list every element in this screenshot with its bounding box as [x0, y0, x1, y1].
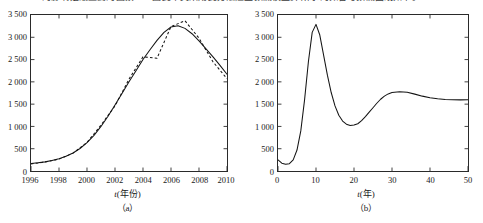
y-tick-label: 500	[261, 145, 274, 154]
x-tick-label: 1996	[22, 176, 39, 185]
x-tick-label: 40	[426, 176, 435, 185]
series-fitted-solid-a	[31, 26, 227, 164]
y-tick-label: 1 000	[8, 123, 27, 132]
y-tick-label: 3 500	[8, 10, 27, 19]
axis-ticks-b	[278, 15, 468, 171]
x-tick-label: 2008	[191, 176, 208, 185]
series-model-solid-b	[278, 24, 468, 164]
x-tick-label: 0	[275, 176, 279, 185]
y-tick-label: 1 500	[255, 100, 274, 109]
x-axis-title-b: t(年)	[241, 189, 483, 199]
y-tick-label: 3 000	[8, 32, 27, 41]
y-tick-label: 0	[270, 168, 274, 177]
x-tick-label: 30	[388, 176, 397, 185]
y-tick-label: 2 500	[8, 55, 27, 64]
chart-panel-b: 0 500 1 000 1 500 2 000 2 500 3 000 3 50…	[241, 0, 483, 223]
x-tick-label: 2002	[106, 176, 123, 185]
x-tick-label: 2004	[135, 176, 152, 185]
x-tick-label: 10	[311, 176, 320, 185]
y-tick-label: 2 000	[8, 77, 27, 86]
x-tick-label: 2000	[78, 176, 95, 185]
series-observed-dashed-a	[31, 21, 227, 164]
x-tick-label: 2006	[163, 176, 180, 185]
y-tick-label: 1 500	[8, 100, 27, 109]
x-axis-unit-b: (年)	[360, 189, 375, 199]
y-tick-label: 2 500	[255, 55, 274, 64]
x-axis-tick-labels-a: 1996 1998 2000 2002 2004 2006 2008 2010	[30, 176, 228, 187]
panel-caption-a: （a）	[0, 203, 241, 213]
x-tick-label: 1998	[50, 176, 67, 185]
chart-panel-a: 0 500 1 000 1 500 2 000 2 500 3 000 3 50…	[0, 0, 241, 223]
plot-area-a	[30, 14, 228, 172]
y-tick-label: 3 500	[255, 10, 274, 19]
axis-ticks-a	[31, 15, 227, 171]
y-tick-label: 3 000	[255, 32, 274, 41]
y-axis-tick-labels-b: 0 500 1 000 1 500 2 000 2 500 3 000 3 50…	[243, 14, 274, 172]
y-tick-label: 500	[14, 145, 27, 154]
panel-caption-b: （b）	[241, 203, 483, 213]
x-tick-label: 20	[350, 176, 359, 185]
x-axis-title-a: t(年份)	[0, 189, 241, 199]
x-axis-unit-a: (年份)	[117, 189, 141, 199]
y-tick-label: 1 000	[255, 123, 274, 132]
x-axis-tick-labels-b: 0 10 20 30 40 50	[277, 176, 469, 187]
x-tick-label: 2010	[218, 176, 235, 185]
x-tick-label: 50	[464, 176, 473, 185]
plot-area-b	[277, 14, 469, 172]
figure-root: 的影响是最重要的因素——因此本文采用此方法建立预测模型。 中所示的拟合与预测曲线…	[0, 0, 483, 223]
plot-svg-a	[31, 15, 227, 171]
plot-svg-b	[278, 15, 468, 171]
y-tick-label: 2 000	[255, 77, 274, 86]
y-axis-tick-labels-a: 0 500 1 000 1 500 2 000 2 500 3 000 3 50…	[0, 14, 27, 172]
